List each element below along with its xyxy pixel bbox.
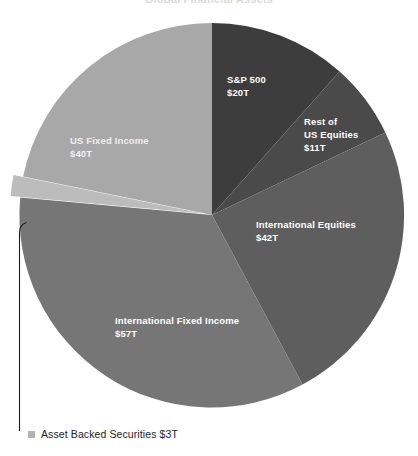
legend: Asset Backed Securities $3T: [28, 428, 178, 440]
slice-label-international-fixed-income-value: $57T: [115, 328, 137, 339]
slice-label-rest-us-line2: US Equities: [304, 129, 358, 140]
legend-label-asset-backed-securities: Asset Backed Securities $3T: [41, 428, 178, 440]
slice-label-international-equities-value: $42T: [256, 232, 278, 243]
slice-label-rest-us-value: $11T: [304, 142, 326, 153]
pie-chart-svg: S&P 500 $20T Rest of US Equities $11T In…: [0, 0, 418, 456]
slice-label-us-fixed-income-name: US Fixed Income: [70, 135, 149, 146]
slice-label-rest-us-line1: Rest of: [304, 116, 338, 127]
slice-label-international-fixed-income-name: International Fixed Income: [115, 315, 239, 326]
slice-label-us-fixed-income-value: $40T: [70, 148, 92, 159]
slice-label-sp500-name: S&P 500: [227, 74, 266, 85]
pie-chart: S&P 500 $20T Rest of US Equities $11T In…: [0, 0, 418, 456]
legend-swatch-asset-backed-securities: [28, 431, 35, 438]
slice-label-international-equities-name: International Equities: [256, 219, 356, 230]
slice-label-sp500-value: $20T: [227, 87, 249, 98]
